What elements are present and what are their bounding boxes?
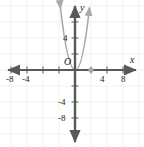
x-tick-label-8: 8 [121,75,126,84]
y-tick-label-4: 4 [63,34,68,43]
x-tick-label-neg8: -8 [6,75,14,84]
vertex-point [88,67,93,72]
x-tick-label-neg4: -4 [22,75,30,84]
x-tick-label-4: 4 [100,75,105,84]
y-tick-label-neg4: -4 [58,98,66,107]
x-axis-label: x [130,55,134,65]
y-axis-label: y [80,3,84,13]
graph-figure: -8 -4 4 8 4 -4 -8 O x y [0,0,144,147]
origin-label: O [64,57,71,67]
y-tick-label-neg8: -8 [58,114,66,123]
